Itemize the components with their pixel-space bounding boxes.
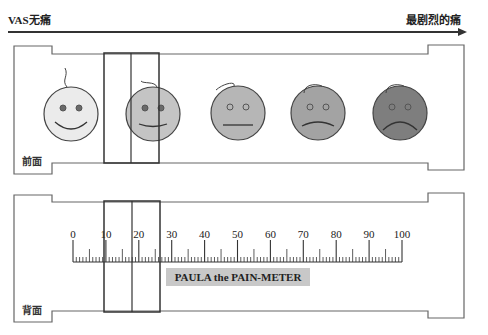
scale-tick-label: 30 [166,228,178,240]
front-side-label: 前面 [22,155,42,167]
scale-tick-label: 20 [133,228,145,240]
back-side-label: 背面 [22,304,42,316]
scale-tick-label: 90 [364,228,376,240]
scale-tick-label: 40 [199,228,211,240]
vas-arrow [8,28,467,36]
meter-label-text: PAULA the PAIN-METER [175,271,303,283]
face-frown-slight-icon [291,85,345,140]
scale-tick-label: 10 [100,228,112,240]
scale-tick-label: 0 [70,228,76,240]
scale-tick-label: 50 [232,228,244,240]
scale-tick-label: 70 [298,228,310,240]
face-frown-big-icon [373,85,427,140]
scale-tick-label: 60 [265,228,277,240]
scale-tick-label: 100 [394,228,411,240]
scale-tick-label: 80 [331,228,343,240]
back-frame [14,193,464,322]
meter-label-box: PAULA the PAIN-METER [166,268,310,286]
pain-meter-diagram: 前面 0102030405060708090100 PAULA the PAIN… [0,0,488,335]
